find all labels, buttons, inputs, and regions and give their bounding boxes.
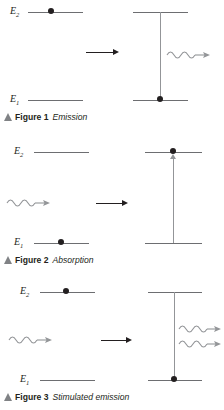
energy-level-upper-right — [148, 292, 202, 293]
electron-dot-icon — [63, 288, 69, 294]
level-label-upper: E2 — [14, 146, 23, 159]
level-label-upper: E2 — [10, 6, 19, 19]
electron-dot-icon — [58, 239, 64, 245]
level-label-upper: E2 — [20, 286, 29, 299]
figure-caption: Figure 1Emission — [4, 113, 87, 122]
figure-number: Figure 3 — [15, 392, 48, 402]
figure-number: Figure 1 — [15, 112, 48, 122]
electron-dot-icon — [157, 96, 163, 102]
right-arrow-head-icon — [113, 49, 119, 55]
electron-dot-icon — [170, 148, 176, 154]
wavy-photon-arrow-icon — [178, 337, 223, 351]
right-arrow-icon — [86, 52, 114, 53]
level-label-lower: E1 — [20, 374, 29, 387]
figure-caption: Figure 3Stimulated emission — [4, 393, 129, 402]
figure-title: Absorption — [52, 255, 93, 265]
figure-title: Stimulated emission — [52, 392, 129, 402]
right-arrow-icon — [101, 340, 127, 341]
transition-line-up — [173, 156, 174, 243]
transition-line-down — [160, 12, 161, 100]
figure-2: E2 E1 Figure 2Absorption — [0, 138, 224, 268]
figure-sheet: E2 E1 Figure 1Emission — [0, 0, 224, 410]
energy-level-lower-left — [28, 100, 83, 101]
right-arrow-head-icon — [122, 200, 128, 206]
wavy-photon-arrow-icon — [6, 196, 51, 210]
caption-triangle-icon — [4, 256, 12, 264]
transition-line-down — [174, 292, 175, 380]
energy-level-lower-right — [145, 243, 202, 244]
right-arrow-icon — [96, 203, 123, 204]
caption-triangle-icon — [4, 113, 12, 121]
figure-title: Emission — [52, 112, 87, 122]
electron-dot-icon — [48, 8, 54, 14]
caption-triangle-icon — [4, 393, 12, 401]
wavy-photon-arrow-icon — [178, 322, 223, 336]
right-arrow-head-icon — [126, 337, 132, 343]
transition-arrowhead-up-icon — [170, 154, 176, 159]
figure-number: Figure 2 — [15, 255, 48, 265]
electron-dot-icon — [171, 376, 177, 382]
energy-level-upper-left — [34, 152, 89, 153]
figure-3: E2 E1 — [0, 280, 224, 410]
energy-level-lower-left — [40, 380, 95, 381]
wavy-photon-arrow-icon — [166, 48, 211, 62]
level-label-lower: E1 — [14, 237, 23, 250]
level-label-lower: E1 — [10, 94, 19, 107]
wavy-photon-arrow-icon — [8, 333, 53, 347]
figure-caption: Figure 2Absorption — [4, 256, 94, 265]
figure-1: E2 E1 Figure 1Emission — [0, 0, 224, 130]
energy-level-upper-left — [28, 12, 83, 13]
